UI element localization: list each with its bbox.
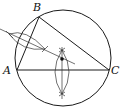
construction-arc-ac-right	[62, 50, 69, 94]
side-bc	[39, 17, 109, 70]
circumcenter-point	[60, 57, 64, 61]
construction-arc-ac-left	[55, 50, 62, 94]
label-b: B	[32, 1, 41, 14]
geometry-diagram: B A C	[0, 0, 122, 109]
label-c: C	[111, 64, 120, 77]
label-a: A	[2, 64, 11, 77]
